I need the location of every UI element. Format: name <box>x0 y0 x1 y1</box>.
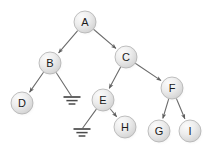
tree-node-g[interactable]: G <box>148 120 170 142</box>
binary-tree-diagram: ABCDEFGHI <box>0 0 210 152</box>
tree-edge-a-to-b <box>59 31 78 53</box>
null-ground-marker <box>74 129 91 136</box>
tree-node-c[interactable]: C <box>115 46 137 68</box>
tree-node-a[interactable]: A <box>74 11 96 33</box>
tree-edge-b-to-null-1 <box>56 73 71 96</box>
node-circle <box>92 89 114 111</box>
tree-canvas: ABCDEFGHI <box>0 0 210 152</box>
tree-node-e[interactable]: E <box>92 89 114 111</box>
tree-edge-b-to-d <box>30 73 44 92</box>
tree-edge-a-to-c <box>94 30 116 49</box>
null-ground-marker <box>64 97 81 104</box>
node-circle <box>39 52 61 74</box>
tree-edge-f-to-g <box>163 99 169 118</box>
node-circle <box>74 11 96 33</box>
null-marker-layer <box>64 97 91 136</box>
node-circle <box>115 46 137 68</box>
tree-edge-c-to-e <box>109 67 120 88</box>
tree-edge-c-to-f <box>136 63 161 80</box>
tree-edge-e-to-null-2 <box>83 109 96 127</box>
node-circle <box>148 120 170 142</box>
node-circle <box>11 92 33 114</box>
node-circle <box>161 77 183 99</box>
node-layer: ABCDEFGHI <box>11 11 201 142</box>
tree-node-i[interactable]: I <box>179 120 201 142</box>
tree-node-h[interactable]: H <box>114 116 136 138</box>
node-circle <box>179 120 201 142</box>
tree-node-f[interactable]: F <box>161 77 183 99</box>
node-circle <box>114 116 136 138</box>
tree-node-d[interactable]: D <box>11 92 33 114</box>
tree-node-b[interactable]: B <box>39 52 61 74</box>
